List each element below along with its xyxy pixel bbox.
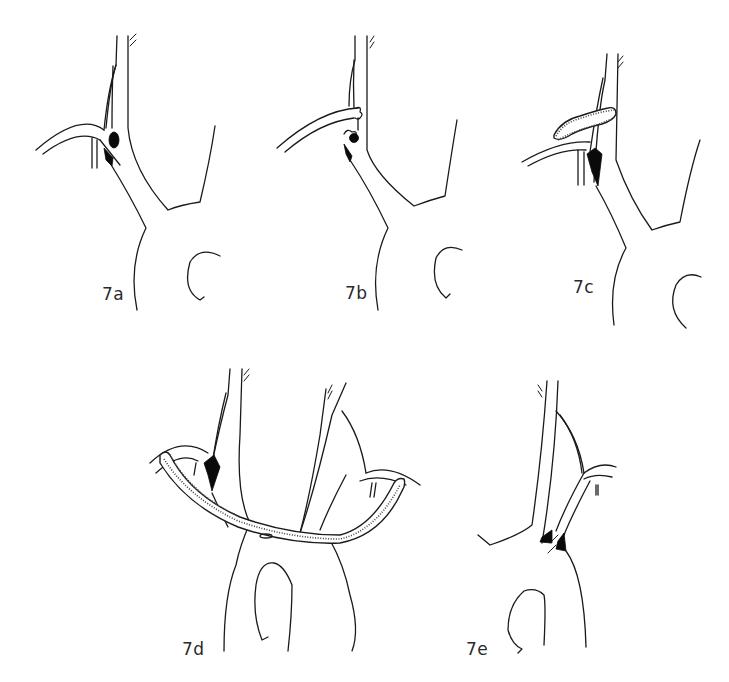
- panel-7c: 7c: [490, 0, 729, 330]
- panel-7c-drawing: [490, 0, 729, 330]
- panel-7e: 7e: [460, 355, 729, 682]
- occlusion-marker: [344, 144, 352, 162]
- divided-vessel-end: [355, 108, 362, 120]
- panel-label: 7e: [466, 639, 488, 659]
- short-bypass-graft: [554, 108, 616, 140]
- panel-7b-drawing: [250, 0, 490, 330]
- panel-7a-drawing: [0, 0, 250, 330]
- long-crossover-graft: [160, 452, 405, 543]
- occlusion-marker: [350, 134, 359, 143]
- panel-7e-drawing: [460, 355, 729, 682]
- panel-7b: 7b: [250, 0, 490, 330]
- occlusion-marker: [204, 455, 220, 491]
- panel-7a: 7a: [0, 0, 250, 330]
- panel-label: 7c: [573, 277, 594, 297]
- panel-label: 7b: [345, 283, 368, 303]
- panel-label: 7d: [182, 639, 205, 659]
- occlusion-marker: [540, 530, 552, 543]
- panel-7d: 7d: [150, 355, 460, 682]
- panel-label: 7a: [102, 284, 124, 304]
- panel-7d-drawing: [150, 355, 460, 682]
- occlusion-marker: [109, 132, 119, 148]
